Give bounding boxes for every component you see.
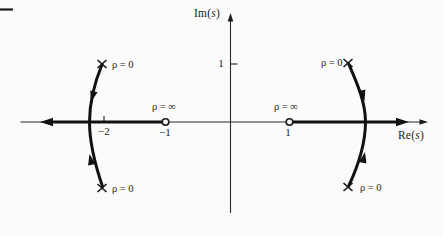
real-tick-label-plus1: 1 (285, 126, 291, 139)
pole-annotation-lower-left: ρ = 0 (112, 182, 134, 195)
imag-axis-label-suffix: ) (216, 7, 220, 19)
real-tick-label-minus1: −1 (159, 126, 171, 139)
imag-tick-label-1: 1 (210, 57, 224, 70)
real-tick-label-minus2: −2 (98, 125, 110, 138)
locus-right-arrowhead-icon (396, 118, 409, 127)
real-axis-label-prefix: Re( (398, 129, 415, 141)
locus-left-arrowhead-icon (40, 118, 53, 127)
zero-annotation-right: ρ = ∞ (274, 100, 298, 113)
zero-marker-right-icon (286, 119, 293, 126)
imag-axis-arrowhead-icon (228, 13, 234, 22)
real-axis-label: Re(s) (398, 129, 424, 142)
pole-annotation-upper-right: ρ = 0 (321, 56, 343, 69)
root-locus-canvas (0, 0, 443, 236)
imag-axis-label: Im(s) (194, 7, 220, 20)
pole-annotation-upper-left: ρ = 0 (112, 58, 134, 71)
locus-right-arc-branch (349, 64, 366, 187)
real-axis-label-suffix: ) (420, 129, 424, 141)
pole-annotation-lower-right: ρ = 0 (360, 181, 382, 194)
zero-annotation-left: ρ = ∞ (152, 100, 176, 113)
real-axis-arrowhead-icon (420, 119, 429, 125)
root-locus-figure: Im(s) Re(s) 1 −2 −1 1 ρ = ∞ ρ = ∞ ρ = 0 … (0, 0, 443, 236)
imag-axis-label-prefix: Im( (194, 7, 211, 19)
zero-marker-left-icon (162, 119, 169, 126)
